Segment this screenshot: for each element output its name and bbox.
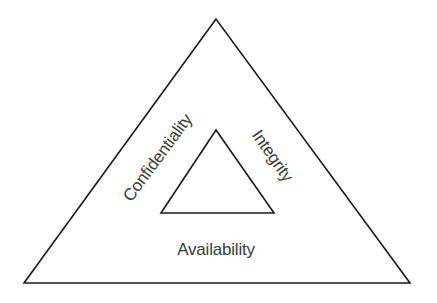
label-availability: Availability bbox=[177, 240, 255, 259]
cia-triad-diagram: Confidentiality Integrity Availability bbox=[0, 0, 437, 303]
label-integrity: Integrity bbox=[248, 126, 298, 186]
label-confidentiality: Confidentiality bbox=[119, 110, 196, 205]
